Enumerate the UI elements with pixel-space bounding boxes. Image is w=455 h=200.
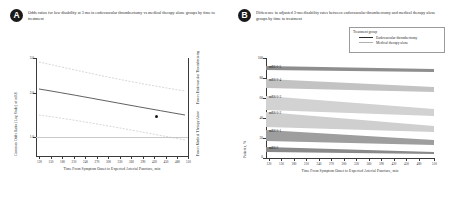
panel-a-point-marker [155, 115, 158, 118]
legend-item-endovascular: Endovascular thrombectomy [359, 36, 441, 40]
panel-b-xtick-label: 480 [411, 162, 428, 166]
panel-b-ytick-60: 60 [250, 96, 263, 100]
legend-line-solid-dark-icon [359, 37, 373, 38]
panel-b-xtick-mark [306, 158, 307, 161]
panel-a-xtick-mark [108, 156, 109, 159]
legend-line-solid-light-icon [359, 42, 373, 43]
panel-b-xtick-mark [344, 158, 345, 161]
band-mrs-0-4 [266, 79, 434, 92]
panel-a-favors-medical-label: Favors Medical Therapy Alone [196, 112, 200, 156]
panel-b-ytick-mark [263, 158, 266, 159]
panel-b-y-axis-label: Patients, % [243, 58, 247, 158]
panel-a-xtick-mark [177, 156, 178, 159]
panel-b-legend: Treatment group Endovascular thrombectom… [349, 27, 445, 53]
band-label-mrs-0-2: mRS 0-2 [269, 111, 281, 115]
panel-b-xtick-mark [419, 158, 420, 161]
panel-b-xtick-mark [394, 158, 395, 161]
band-label-mrs-0: mRS 0 [269, 146, 278, 150]
band-label-mrs-0-5: mRS 0-5 [269, 65, 281, 69]
band-mrs-0-3 [266, 96, 434, 116]
panel-b-xtick-mark [294, 158, 295, 161]
panel-a-header: A Odds ratios for low disability at 3 mo… [10, 9, 222, 22]
panel-a-xtick-mark [143, 156, 144, 159]
band-mrs-0-1 [266, 130, 434, 145]
panel-a-xtick-mark [154, 156, 155, 159]
panel-a-xtick-label: 510 [180, 160, 197, 164]
two-panel-figure: A Odds ratios for low disability at 3 mo… [0, 0, 455, 200]
panel-a-y-axis-right [188, 58, 189, 156]
legend-item-label: Endovascular thrombectomy [376, 36, 417, 40]
panel-b-x-axis [266, 158, 434, 159]
panel-a-xtick-mark [74, 156, 75, 159]
panel-a-xtick-mark [51, 156, 52, 159]
panel-a-badge: A [10, 9, 23, 22]
panel-b-xtick-mark [406, 158, 407, 161]
band-mrs-0-5 [266, 66, 434, 72]
panel-b-xtick-mark [331, 158, 332, 161]
panel-b-ytick-80: 80 [250, 76, 263, 80]
panel-a-y-axis-label: Common Odds Ratio (Log Scale) of mRS [14, 58, 18, 156]
panel-b-x-axis-label: Time From Symptom Onset to Expected Arte… [266, 169, 434, 173]
panel-b-xtick-label: 510 [426, 162, 443, 166]
panel-b-ytick-100: 100 [250, 56, 263, 60]
panel-b-header: B Difference in adjusted 3-mo disability… [238, 9, 447, 22]
legend-item-medical: Medical therapy alone [359, 41, 441, 45]
panel-a-x-axis-label: Time From Symptom Onset to Expected Arte… [36, 167, 188, 171]
panel-a-lower-ci-curve [39, 115, 185, 140]
panel-a-upper-ci-curve [39, 62, 185, 91]
panel-a-xtick-mark [131, 156, 132, 159]
panel-a-xtick-mark [62, 156, 63, 159]
panel-b-xtick-mark [356, 158, 357, 161]
panel-b-bands [266, 58, 434, 158]
band-label-mrs-0-4: mRS 0-4 [269, 78, 281, 82]
panel-a: A Odds ratios for low disability at 3 mo… [0, 0, 228, 200]
panel-b-ytick-40: 40 [250, 116, 263, 120]
panel-b-title: Difference in adjusted 3-mo disability r… [256, 9, 446, 22]
panel-b-xtick-mark [281, 158, 282, 161]
band-label-mrs-0-3: mRS 0-3 [269, 95, 281, 99]
legend-item-label: Medical therapy alone [376, 41, 408, 45]
panel-a-xtick-mark [188, 156, 189, 159]
panel-a-curves [36, 58, 188, 156]
legend-title: Treatment group [353, 30, 441, 34]
panel-b-xtick-mark [434, 158, 435, 161]
panel-b-xtick-mark [381, 158, 382, 161]
panel-a-xtick-mark [39, 156, 40, 159]
panel-b-xtick-mark [369, 158, 370, 161]
panel-a-xtick-mark [97, 156, 98, 159]
panel-a-title: Odds ratios for low disability at 3 mo i… [28, 9, 218, 22]
panel-a-estimate-curve [39, 89, 185, 115]
panel-b-xtick-mark [319, 158, 320, 161]
panel-a-xtick-mark [85, 156, 86, 159]
panel-a-xtick-mark [120, 156, 121, 159]
panel-b-xtick-mark [269, 158, 270, 161]
band-mrs-0 [266, 147, 434, 154]
panel-b-badge: B [238, 9, 251, 22]
panel-b-ytick-20: 20 [250, 136, 263, 140]
panel-a-favors-etv-label: Favors Endovascular Thrombectomy [196, 58, 200, 104]
panel-b-ytick-0: 0 [250, 155, 263, 159]
band-label-mrs-0-1: mRS 0-1 [269, 129, 281, 133]
panel-a-xtick-mark [166, 156, 167, 159]
